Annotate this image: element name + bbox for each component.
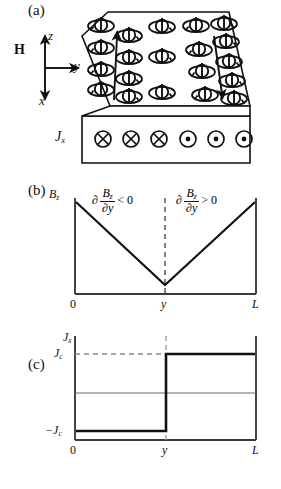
panel-b-ylabel: Bz: [49, 187, 59, 202]
panel-c-xtick-L: L: [252, 443, 259, 458]
fraction-right-numerator: Bz: [184, 187, 199, 202]
axis-label-z: z: [48, 28, 53, 44]
panel-c-ytick-neg-sub: c: [58, 429, 61, 438]
panel-c-svg: [0, 332, 281, 467]
fraction-left: Bz ∂y: [100, 187, 115, 214]
figure-root: (a): [0, 0, 281, 489]
fraction-left-den-symbol: y: [108, 201, 113, 215]
annotation-gradient-positive: ∂ Bz ∂y > 0: [176, 187, 217, 214]
panel-c-ytick-negative: −Jc: [45, 423, 62, 438]
fraction-right-num-symbol: B: [186, 186, 193, 200]
panel-c-ylabel: Jx: [63, 330, 72, 345]
partial-symbol-right-num: ∂: [176, 193, 182, 208]
fraction-right-den-symbol: y: [192, 201, 197, 215]
fraction-left-numerator: Bz: [100, 187, 115, 202]
applied-field-label: H: [14, 42, 25, 58]
panel-b-xtick-y: y: [161, 297, 166, 312]
partial-symbol-left-num: ∂: [92, 193, 98, 208]
panel-c-ytick-pos-sub: c: [59, 352, 62, 361]
panel-b-svg: [0, 180, 281, 325]
fraction-right: Bz ∂y: [184, 187, 199, 214]
current-density-label-a: Jx: [55, 129, 65, 145]
relation-left: < 0: [117, 193, 133, 208]
coordinate-axes: [45, 40, 74, 95]
panel-b-ylabel-subscript: z: [56, 193, 59, 202]
axis-label-y: y: [74, 58, 80, 74]
panel-c-ylabel-subscript: x: [68, 336, 71, 345]
fraction-left-denominator: ∂y: [100, 202, 115, 214]
panel-b-xtick-L: L: [252, 297, 259, 312]
fraction-right-denominator: ∂y: [184, 202, 199, 214]
panel-c-ytick-neg-symbol: −J: [45, 423, 58, 437]
fraction-left-num-symbol: B: [102, 186, 109, 200]
current-density-subscript: x: [61, 135, 65, 145]
panel-c-ytick-positive: Jc: [54, 346, 63, 361]
panel-c-xtick-0: 0: [70, 443, 76, 458]
panel-a-svg: [0, 0, 281, 180]
panel-c-xtick-y: y: [162, 443, 167, 458]
axis-label-x: x: [39, 93, 45, 109]
annotation-gradient-negative: ∂ Bz ∂y < 0: [92, 187, 133, 214]
relation-right: > 0: [201, 193, 217, 208]
panel-b-xtick-0: 0: [70, 297, 76, 312]
